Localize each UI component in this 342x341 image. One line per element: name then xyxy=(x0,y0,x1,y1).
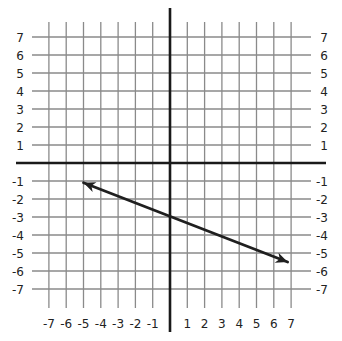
y-tick-label-right: -4 xyxy=(316,229,328,243)
x-tick-label: -3 xyxy=(112,317,124,331)
y-tick-label-left: 4 xyxy=(16,85,24,99)
x-tick-label: -1 xyxy=(147,317,159,331)
y-tick-label-right: -2 xyxy=(316,193,328,207)
y-tick-label-right: -3 xyxy=(316,211,328,225)
y-tick-label-right: 7 xyxy=(320,31,328,45)
y-tick-label-right: 6 xyxy=(320,49,328,63)
grid-lines xyxy=(32,22,311,308)
y-tick-label-right: 4 xyxy=(320,85,328,99)
x-tick-label: 4 xyxy=(235,317,243,331)
x-tick-label: -6 xyxy=(60,317,72,331)
y-tick-label-left: -3 xyxy=(12,211,24,225)
y-tick-label-left: 3 xyxy=(16,103,24,117)
x-tick-label: 1 xyxy=(183,317,191,331)
y-tick-label-right: -7 xyxy=(316,283,328,297)
y-tick-label-left: 1 xyxy=(16,139,24,153)
x-tick-label: -4 xyxy=(95,317,107,331)
x-tick-label: -7 xyxy=(43,317,55,331)
y-tick-label-left: -6 xyxy=(12,265,24,279)
y-tick-label-left: 2 xyxy=(16,121,24,135)
x-tick-label: 6 xyxy=(270,317,278,331)
y-tick-label-left: -7 xyxy=(12,283,24,297)
y-tick-label-right: -1 xyxy=(316,175,328,189)
x-tick-label: 7 xyxy=(287,317,295,331)
y-tick-label-right: -6 xyxy=(316,265,328,279)
y-tick-label-right: 3 xyxy=(320,103,328,117)
y-tick-label-left: -4 xyxy=(12,229,24,243)
x-tick-label: 5 xyxy=(253,317,261,331)
y-tick-label-right: 1 xyxy=(320,139,328,153)
axes xyxy=(16,8,326,332)
y-tick-label-right: -5 xyxy=(316,247,328,261)
y-tick-label-left: -5 xyxy=(12,247,24,261)
y-tick-label-left: -2 xyxy=(12,193,24,207)
y-tick-label-right: 2 xyxy=(320,121,328,135)
y-tick-label-left: 6 xyxy=(16,49,24,63)
y-tick-label-left: -1 xyxy=(12,175,24,189)
x-tick-label: 3 xyxy=(218,317,226,331)
y-tick-label-left: 7 xyxy=(16,31,24,45)
coordinate-plane: -7-6-5-4-3-2-112345677654321-1-2-3-4-5-6… xyxy=(0,0,342,341)
y-tick-label-left: 5 xyxy=(16,67,24,81)
y-tick-label-right: 5 xyxy=(320,67,328,81)
x-tick-label: -5 xyxy=(78,317,90,331)
x-tick-label: 2 xyxy=(201,317,209,331)
x-tick-label: -2 xyxy=(129,317,141,331)
